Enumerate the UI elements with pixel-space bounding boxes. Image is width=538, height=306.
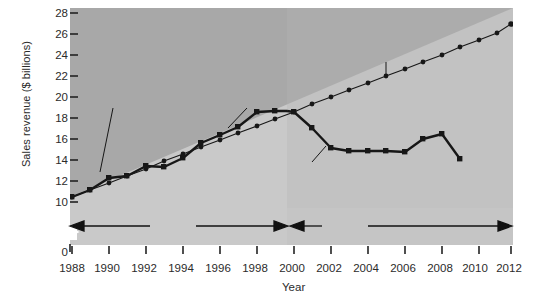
x-axis — [70, 244, 513, 254]
chart-canvas — [0, 0, 538, 306]
chart-figure: Sales revenue ($ billions) 28 26 24 22 2… — [0, 0, 538, 306]
plot-background — [70, 8, 513, 245]
